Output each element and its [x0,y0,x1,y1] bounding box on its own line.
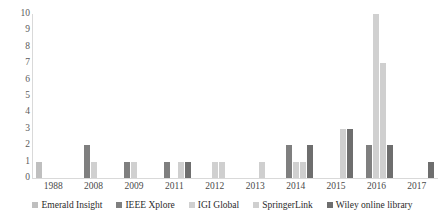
y-axis-tick-label: 10 [4,9,30,19]
bar-cluster [235,14,275,178]
bar [91,162,97,178]
bar-chart: 012345678910 198820082009201120122013201… [0,0,445,224]
bar [300,162,306,178]
bar-cluster [356,14,396,178]
bar [428,162,434,178]
y-axis-tick-label: 3 [4,124,30,134]
bar [293,162,299,178]
x-axis-tick-label: 2014 [275,181,315,191]
bar [286,145,292,178]
y-axis-tick-label: 6 [4,75,30,85]
legend-item[interactable]: Emerald Insight [32,200,102,210]
bar [164,162,170,178]
bar [347,129,353,178]
legend-swatch-icon [32,202,38,208]
legend-item[interactable]: SpringerLink [253,200,313,210]
y-axis-tick-label: 1 [4,157,30,167]
bar [131,162,137,178]
bar [124,162,130,178]
x-axis-tick-label: 1988 [33,181,73,191]
y-axis-tick-label: 7 [4,58,30,68]
bar-cluster [33,14,73,178]
bar [259,162,265,178]
x-axis-tick-label: 2011 [154,181,194,191]
legend-item[interactable]: IGI Global [189,200,239,210]
legend-label: IGI Global [198,200,239,210]
bar [380,63,386,178]
bar [84,145,90,178]
bar [212,162,218,178]
bar-cluster [397,14,437,178]
chart-legend: Emerald InsightIEEE XploreIGI GlobalSpri… [0,200,445,210]
x-axis-line [32,178,438,179]
bar [178,162,184,178]
x-axis-tick-label: 2008 [73,181,113,191]
bar-cluster [195,14,235,178]
bar-cluster [114,14,154,178]
x-axis-tick-label: 2015 [316,181,356,191]
bar-cluster [154,14,194,178]
bar [387,145,393,178]
bar-clusters [33,14,437,178]
y-axis-tick-label: 8 [4,42,30,52]
legend-swatch-icon [189,202,195,208]
bar [340,129,346,178]
bar-cluster [316,14,356,178]
bar [373,14,379,178]
y-axis-tick-label: 9 [4,26,30,36]
y-axis-tick-label: 0 [4,173,30,183]
bar-cluster [73,14,113,178]
legend-label: SpringerLink [262,200,313,210]
y-axis-tick-label: 5 [4,91,30,101]
x-axis-tick-label: 2009 [114,181,154,191]
y-axis-tick-label: 2 [4,140,30,150]
x-axis-tick-label: 2016 [356,181,396,191]
legend-label: Wiley online library [336,200,413,210]
legend-label: IEEE Xplore [125,200,174,210]
legend-swatch-icon [327,202,333,208]
bar [219,162,225,178]
bar [307,145,313,178]
x-axis-tick-label: 2013 [235,181,275,191]
x-axis-labels: 1988200820092011201220132014201520162017 [33,181,437,191]
bar [36,162,42,178]
legend-item[interactable]: IEEE Xplore [116,200,174,210]
y-axis-tick-label: 4 [4,108,30,118]
bar-cluster [275,14,315,178]
legend-swatch-icon [116,202,122,208]
x-axis-tick-label: 2012 [195,181,235,191]
legend-item[interactable]: Wiley online library [327,200,413,210]
bar [366,145,372,178]
y-axis: 012345678910 [0,0,30,193]
x-axis-tick-label: 2017 [397,181,437,191]
legend-swatch-icon [253,202,259,208]
bar [185,162,191,178]
legend-label: Emerald Insight [41,200,102,210]
